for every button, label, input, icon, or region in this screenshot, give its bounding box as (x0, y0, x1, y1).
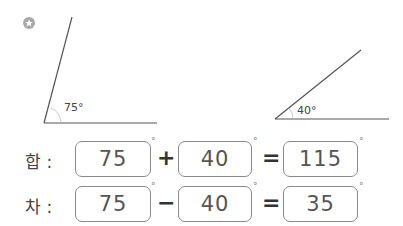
sum-label: 합 : (25, 148, 52, 173)
difference-label: 차 : (25, 193, 52, 218)
sum-operand-b-box: 40 (178, 141, 252, 177)
minus-operator: − (157, 192, 175, 214)
diff-operand-a-box: 75 (75, 186, 151, 222)
angle-label-40: 40° (297, 104, 317, 117)
sum-operand-a-box: 75 (75, 141, 151, 177)
diff-operand-b-box: 40 (178, 186, 252, 222)
equals-operator: = (262, 147, 280, 169)
degree-mark: ° (359, 136, 364, 146)
degree-mark: ° (253, 181, 258, 191)
degree-mark: ° (151, 136, 156, 146)
degree-mark: ° (359, 181, 364, 191)
diff-result-box: 35 (283, 186, 358, 222)
degree-mark: ° (253, 136, 258, 146)
plus-operator: + (157, 147, 175, 169)
degree-mark: ° (151, 181, 156, 191)
equals-operator: = (262, 192, 280, 214)
angle-label-75: 75° (64, 101, 84, 114)
sum-result-box: 115 (283, 141, 358, 177)
